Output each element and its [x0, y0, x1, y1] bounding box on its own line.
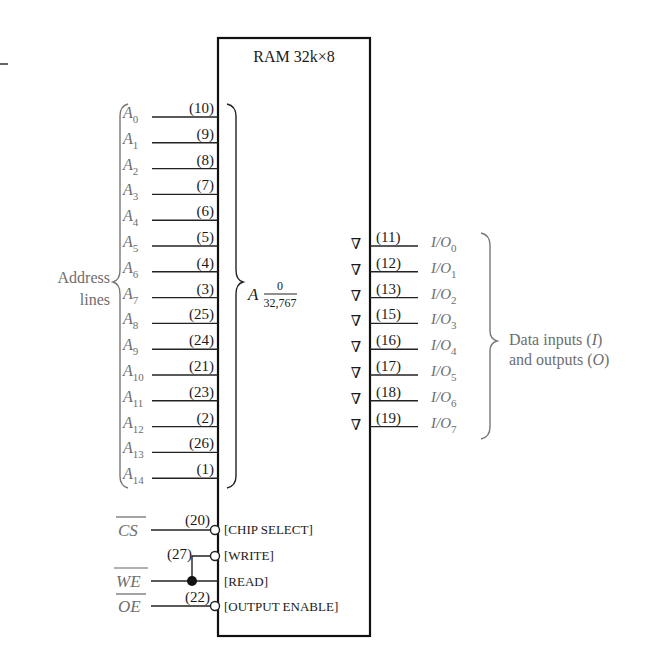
address-line: (23)A11 [122, 384, 218, 409]
address-line: (10)A0 [122, 100, 218, 125]
tristate-icon: ∇ [351, 417, 361, 433]
data-io-line: ∇(16)I/O4 [351, 332, 457, 357]
we-signal: WE [116, 572, 141, 591]
address-name: A7 [122, 285, 139, 306]
tristate-icon: ∇ [351, 313, 361, 329]
address-line: (5)A5 [122, 229, 218, 254]
tristate-icon: ∇ [351, 339, 361, 355]
address-line: (4)A6 [122, 255, 218, 280]
cs-function: [CHIP SELECT] [224, 522, 313, 537]
data-io-line: ∇(18)I/O6 [351, 384, 457, 409]
address-range-top: 0 [277, 279, 283, 293]
data-pin-number: (15) [376, 306, 401, 323]
data-io-line: ∇(11)I/O0 [351, 229, 457, 254]
address-line: (2)A12 [122, 410, 218, 435]
address-line: (25)A8 [122, 306, 218, 331]
data-pin-number: (17) [376, 358, 401, 375]
address-name: A6 [122, 259, 139, 280]
data-pin-number: (11) [376, 229, 400, 246]
address-name: A4 [122, 207, 139, 228]
address-name: A9 [122, 336, 139, 357]
address-name: A11 [122, 388, 143, 409]
address-name: A5 [122, 233, 139, 254]
tristate-icon: ∇ [351, 236, 361, 252]
address-name: A8 [122, 310, 139, 331]
address-line: (6)A4 [122, 203, 218, 228]
data-io-line: ∇(17)I/O5 [351, 358, 457, 383]
io-name: I/O4 [430, 337, 457, 357]
address-right-brace [227, 104, 243, 488]
address-lines-label-2: lines [80, 291, 110, 308]
control-output-enable: OE (22) [OUTPUT ENABLE] [116, 589, 338, 616]
address-pin-number: (9) [197, 126, 215, 143]
address-line: (24)A9 [122, 332, 218, 357]
address-pin-number: (25) [189, 306, 214, 323]
tristate-icon: ∇ [351, 262, 361, 278]
address-line: (1)A14 [122, 461, 218, 486]
io-name: I/O2 [430, 286, 457, 306]
io-name: I/O7 [430, 415, 457, 435]
address-pin-number: (5) [197, 229, 215, 246]
junction-dot [187, 576, 197, 586]
data-pin-number: (16) [376, 332, 401, 349]
address-name: A14 [122, 465, 144, 486]
tristate-icon: ∇ [351, 365, 361, 381]
address-line: (3)A7 [122, 281, 218, 306]
address-pin-number: (21) [189, 358, 214, 375]
read-function: [READ] [224, 574, 268, 589]
address-pin-number: (1) [197, 461, 215, 478]
address-pin-number: (24) [189, 332, 214, 349]
data-label-1: Data inputs (I) [509, 331, 602, 349]
io-name: I/O5 [430, 363, 457, 383]
address-name: A10 [122, 362, 144, 383]
data-pin-number: (13) [376, 281, 401, 298]
address-pin-number: (3) [197, 281, 215, 298]
address-line: (8)A2 [122, 152, 218, 177]
address-lines-label-1: Address [58, 269, 110, 286]
oe-function: [OUTPUT ENABLE] [224, 599, 338, 614]
data-pin-number: (18) [376, 384, 401, 401]
io-name: I/O1 [430, 260, 457, 280]
address-pin-number: (4) [197, 255, 215, 272]
address-pin-number: (7) [197, 177, 215, 194]
cs-signal: CS [118, 521, 138, 540]
address-pin-number: (10) [189, 100, 214, 117]
io-name: I/O0 [430, 234, 457, 254]
address-line: (21)A10 [122, 358, 218, 383]
address-line: (9)A1 [122, 126, 218, 151]
address-pin-number: (8) [197, 152, 215, 169]
write-pin: (27) [167, 546, 192, 563]
tristate-icon: ∇ [351, 391, 361, 407]
data-right-brace [481, 233, 497, 439]
address-name: A12 [122, 414, 144, 435]
data-io-lines: ∇(11)I/O0∇(12)I/O1∇(13)I/O2∇(15)I/O3∇(16… [351, 229, 457, 435]
write-function: [WRITE] [224, 548, 274, 563]
tristate-icon: ∇ [351, 288, 361, 304]
address-name: A2 [122, 156, 138, 177]
address-line: (7)A3 [122, 177, 218, 202]
address-pin-number: (26) [189, 435, 214, 452]
chip-box [218, 38, 370, 636]
address-name: A13 [122, 439, 144, 460]
address-range-bottom: 32,767 [264, 296, 297, 310]
data-label-2: and outputs (O) [509, 351, 609, 369]
control-chip-select: CS (20) [CHIP SELECT] [116, 512, 313, 540]
data-pin-number: (12) [376, 255, 401, 272]
data-io-line: ∇(13)I/O2 [351, 281, 457, 306]
control-write-enable: WE [READ] [114, 568, 268, 591]
address-line: (26)A13 [122, 435, 218, 460]
data-pin-number: (19) [376, 410, 401, 427]
address-name: A3 [122, 181, 139, 202]
address-pin-number: (23) [189, 384, 214, 401]
address-lines: (10)A0(9)A1(8)A2(7)A3(6)A4(5)A5(4)A6(3)A… [122, 100, 218, 486]
io-name: I/O3 [430, 311, 457, 331]
ram-32k-x8-diagram: RAM 32k×8 (10)A0(9)A1(8)A2(7)A3(6)A4(5)A… [0, 0, 671, 671]
cs-pin: (20) [185, 512, 210, 529]
address-pin-number: (2) [197, 410, 215, 427]
data-io-line: ∇(12)I/O1 [351, 255, 457, 280]
chip-title: RAM 32k×8 [253, 48, 334, 65]
oe-pin: (22) [185, 589, 210, 606]
address-pin-number: (6) [197, 203, 215, 220]
io-name: I/O6 [430, 389, 457, 409]
address-range-A: A [247, 285, 259, 304]
